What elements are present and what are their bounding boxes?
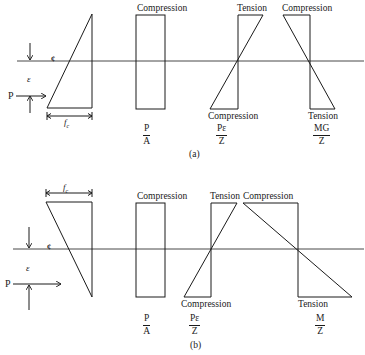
eccentric-stress-diagram-a — [210, 15, 263, 109]
pa-fraction-a: P A — [143, 124, 150, 146]
pa-compression-label-a: Compression — [137, 4, 187, 14]
pez-fraction-b: Pε Z — [189, 314, 200, 336]
pez-denominator-a: Z — [216, 136, 227, 147]
panel-a — [16, 14, 364, 120]
pez-fraction-a: Pε Z — [216, 124, 227, 146]
pa-denominator-b: A — [143, 326, 150, 337]
pa-numerator-b: P — [143, 314, 150, 326]
mz-fraction-b: M Z — [315, 314, 325, 336]
pez-tension-label-a: Tension — [237, 4, 267, 14]
pa-denominator-a: A — [143, 136, 150, 147]
combined-stress-triangle-b — [46, 202, 92, 297]
pez-compression-label-a: Compression — [208, 112, 258, 122]
centroid-symbol-a: ¢ — [51, 55, 55, 64]
pez-denominator-b: Z — [189, 326, 200, 337]
mz-compression-label-b: Compression — [243, 192, 293, 202]
mz-denominator-b: Z — [315, 326, 325, 337]
moment-stress-diagram-a — [283, 15, 335, 109]
fc-label-a: fc — [64, 117, 69, 129]
fc-subscript-a: c — [67, 123, 70, 129]
caption-a: (a) — [189, 149, 200, 159]
pa-fraction-b: P A — [143, 314, 150, 336]
mz-tension-label-b: Tension — [298, 300, 328, 310]
caption-b: (b) — [190, 340, 201, 350]
pez-compression-label-b: Compression — [181, 300, 231, 310]
mgz-tension-label-a: Tension — [308, 112, 338, 122]
fc-label-b: fc — [63, 182, 68, 194]
axial-stress-block-b — [136, 203, 165, 297]
moment-stress-diagram-b — [243, 203, 352, 297]
pez-numerator-a: Pε — [216, 124, 227, 136]
pa-numerator-a: P — [143, 124, 150, 136]
fc-subscript-b: c — [66, 188, 69, 194]
pez-tension-label-b: Tension — [210, 192, 240, 202]
force-symbol-b: P — [5, 278, 11, 289]
centroid-symbol-b: ¢ — [47, 243, 51, 252]
force-symbol-a: P — [8, 90, 14, 101]
pa-compression-label-b: Compression — [137, 192, 187, 202]
eccentricity-symbol-b: ε — [26, 263, 30, 273]
pez-numerator-b: Pε — [189, 314, 200, 326]
mz-numerator-b: M — [315, 314, 325, 326]
panel-b — [13, 189, 364, 310]
axial-stress-block-a — [136, 15, 165, 109]
eccentricity-symbol-a: ε — [27, 74, 31, 84]
mgz-denominator-a: Z — [313, 136, 330, 147]
mgz-numerator-a: MG — [313, 124, 330, 136]
mgz-compression-label-a: Compression — [282, 4, 332, 14]
mgz-fraction-a: MG Z — [313, 124, 330, 146]
eccentric-stress-diagram-b — [184, 203, 237, 297]
